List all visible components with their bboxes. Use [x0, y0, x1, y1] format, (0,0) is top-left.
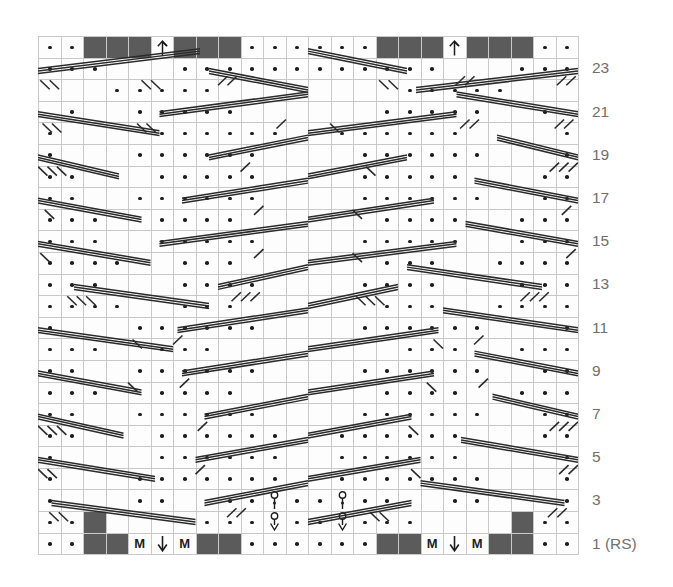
chart-cell-purl[interactable]: [129, 318, 152, 340]
chart-cell-purl[interactable]: [197, 361, 220, 383]
chart-cell-purl[interactable]: [309, 490, 332, 512]
chart-cell-purl[interactable]: [107, 253, 130, 275]
chart-cell-purl[interactable]: [467, 490, 490, 512]
chart-cell[interactable]: [107, 361, 130, 383]
chart-cell[interactable]: [107, 383, 130, 405]
chart-cell-purl[interactable]: [399, 339, 422, 361]
chart-cell[interactable]: [489, 123, 512, 145]
chart-cell-purl[interactable]: [197, 469, 220, 491]
chart-cell[interactable]: [287, 188, 310, 210]
chart-cell-purl[interactable]: [62, 512, 85, 534]
chart-cell[interactable]: [39, 102, 62, 124]
chart-cell[interactable]: [534, 469, 557, 491]
chart-cell-purl[interactable]: [219, 447, 242, 469]
chart-cell-purl[interactable]: [152, 469, 175, 491]
chart-cell-purl[interactable]: [84, 210, 107, 232]
chart-cell-purl[interactable]: [62, 534, 85, 556]
chart-cell-purl[interactable]: [84, 296, 107, 318]
chart-cell-purl[interactable]: [219, 512, 242, 534]
chart-cell-purl[interactable]: [557, 188, 580, 210]
chart-cell-purl[interactable]: [534, 167, 557, 189]
chart-cell-purl[interactable]: [354, 231, 377, 253]
chart-cell[interactable]: M: [467, 534, 490, 556]
chart-cell-purl[interactable]: [197, 145, 220, 167]
chart-cell-purl[interactable]: [174, 426, 197, 448]
chart-cell-purl[interactable]: [174, 275, 197, 297]
chart-cell[interactable]: [309, 123, 332, 145]
chart-cell[interactable]: [309, 404, 332, 426]
chart-cell[interactable]: [242, 210, 265, 232]
chart-cell-purl[interactable]: [422, 426, 445, 448]
chart-cell-purl[interactable]: [264, 426, 287, 448]
chart-cell-purl[interactable]: [197, 275, 220, 297]
chart-cell[interactable]: [107, 318, 130, 340]
chart-cell[interactable]: [152, 512, 175, 534]
chart-cell[interactable]: [264, 383, 287, 405]
chart-cell-purl[interactable]: [242, 490, 265, 512]
chart-cell-dark[interactable]: [512, 37, 535, 59]
chart-cell[interactable]: [399, 490, 422, 512]
chart-cell[interactable]: [489, 469, 512, 491]
chart-cell-purl[interactable]: [512, 296, 535, 318]
chart-cell[interactable]: [354, 80, 377, 102]
chart-cell[interactable]: [242, 296, 265, 318]
chart-cell[interactable]: [467, 167, 490, 189]
chart-cell-purl[interactable]: [219, 426, 242, 448]
chart-cell-purl[interactable]: [39, 253, 62, 275]
chart-cell-purl[interactable]: [62, 253, 85, 275]
chart-cell-purl[interactable]: [174, 167, 197, 189]
chart-grid[interactable]: MMMM: [38, 36, 579, 555]
chart-cell-purl[interactable]: [377, 210, 400, 232]
chart-cell[interactable]: [512, 469, 535, 491]
chart-cell-purl[interactable]: [264, 59, 287, 81]
chart-cell-purl[interactable]: [377, 469, 400, 491]
chart-cell-purl[interactable]: [219, 383, 242, 405]
chart-cell-purl[interactable]: [399, 80, 422, 102]
chart-cell-purl[interactable]: [152, 490, 175, 512]
chart-cell[interactable]: [129, 123, 152, 145]
chart-cell[interactable]: [107, 167, 130, 189]
chart-cell-purl[interactable]: [399, 383, 422, 405]
chart-cell[interactable]: [129, 275, 152, 297]
chart-cell-purl[interactable]: [197, 80, 220, 102]
chart-cell[interactable]: [84, 123, 107, 145]
chart-cell[interactable]: [242, 383, 265, 405]
chart-cell[interactable]: [512, 447, 535, 469]
chart-cell-purl[interactable]: [444, 210, 467, 232]
chart-cell-purl[interactable]: [219, 188, 242, 210]
chart-cell[interactable]: [287, 318, 310, 340]
chart-cell[interactable]: [332, 512, 355, 534]
chart-cell[interactable]: [129, 447, 152, 469]
chart-cell-purl[interactable]: [399, 145, 422, 167]
chart-cell-purl[interactable]: [39, 167, 62, 189]
chart-cell-purl[interactable]: [467, 361, 490, 383]
chart-cell-purl[interactable]: [399, 512, 422, 534]
chart-cell-purl[interactable]: [309, 59, 332, 81]
chart-cell-purl[interactable]: [152, 447, 175, 469]
chart-cell-purl[interactable]: [557, 123, 580, 145]
chart-cell[interactable]: [174, 512, 197, 534]
chart-cell-purl[interactable]: [39, 426, 62, 448]
chart-cell-purl[interactable]: [197, 167, 220, 189]
chart-cell[interactable]: [512, 361, 535, 383]
chart-cell[interactable]: [444, 59, 467, 81]
chart-cell[interactable]: [332, 275, 355, 297]
chart-cell[interactable]: [489, 210, 512, 232]
chart-cell-purl[interactable]: [354, 447, 377, 469]
chart-cell-purl[interactable]: [557, 404, 580, 426]
chart-cell[interactable]: [287, 102, 310, 124]
chart-cell[interactable]: [107, 102, 130, 124]
chart-cell-purl[interactable]: [219, 123, 242, 145]
chart-cell[interactable]: [107, 339, 130, 361]
chart-cell-purl[interactable]: [377, 447, 400, 469]
chart-cell[interactable]: [467, 59, 490, 81]
chart-cell-purl[interactable]: [62, 231, 85, 253]
chart-cell-purl[interactable]: [309, 512, 332, 534]
chart-cell-purl[interactable]: [377, 145, 400, 167]
chart-cell-purl[interactable]: [377, 59, 400, 81]
chart-cell[interactable]: [534, 318, 557, 340]
chart-cell[interactable]: [62, 145, 85, 167]
chart-cell-purl[interactable]: [399, 447, 422, 469]
chart-cell[interactable]: [107, 275, 130, 297]
chart-cell-purl[interactable]: [174, 339, 197, 361]
